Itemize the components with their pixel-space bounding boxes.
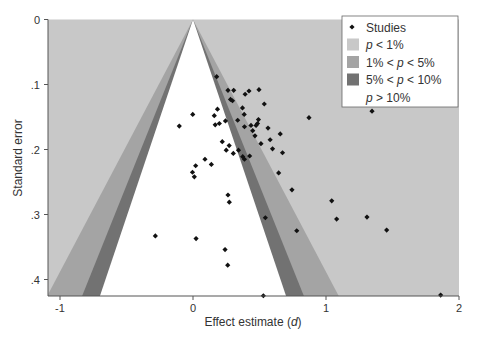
y-tick-label: .3 [31, 209, 40, 221]
x-axis-label: Effect estimate (d) [204, 315, 301, 329]
legend-label: p < 1% [365, 38, 404, 52]
x-tick-label: 1 [323, 302, 329, 314]
funnel-plot-svg: 0.1.2.3.4-1012 Studiesp < 1%1% < p < 5%5… [0, 0, 477, 342]
y-tick-label: .1 [31, 79, 40, 91]
legend-label-pre: 1% < [366, 56, 397, 70]
x-tick-label: 2 [456, 302, 462, 314]
y-tick-label: 0 [34, 14, 40, 26]
legend-swatch [347, 56, 359, 68]
x-tick-label: -1 [55, 302, 65, 314]
legend-label-post: Studies [366, 21, 406, 35]
legend-label: 1% < p < 5% [366, 56, 435, 70]
legend-label: 5% < p < 10% [366, 73, 442, 87]
y-tick-label: .4 [31, 274, 40, 286]
legend-swatch [347, 74, 359, 86]
funnel-plot: 0.1.2.3.4-1012 Studiesp < 1%1% < p < 5%5… [0, 0, 477, 342]
legend-label: p > 10% [365, 91, 411, 105]
legend-label-pre: 5% < [366, 73, 397, 87]
legend-label-post: < 10% [404, 73, 442, 87]
legend-swatch [347, 39, 359, 51]
x-axis-label-prefix: Effect estimate ( [204, 315, 290, 329]
legend-label-post: < 5% [404, 56, 435, 70]
legend: Studiesp < 1%1% < p < 5%5% < p < 10%p > … [342, 16, 458, 107]
x-tick-label: 0 [190, 302, 196, 314]
legend-label-post: < 1% [373, 38, 404, 52]
legend-label: Studies [366, 21, 406, 35]
legend-label-post: > 10% [373, 91, 411, 105]
y-axis-label: Standard error [11, 119, 25, 196]
x-axis-label-suffix: ) [298, 315, 302, 329]
y-tick-label: .2 [31, 144, 40, 156]
